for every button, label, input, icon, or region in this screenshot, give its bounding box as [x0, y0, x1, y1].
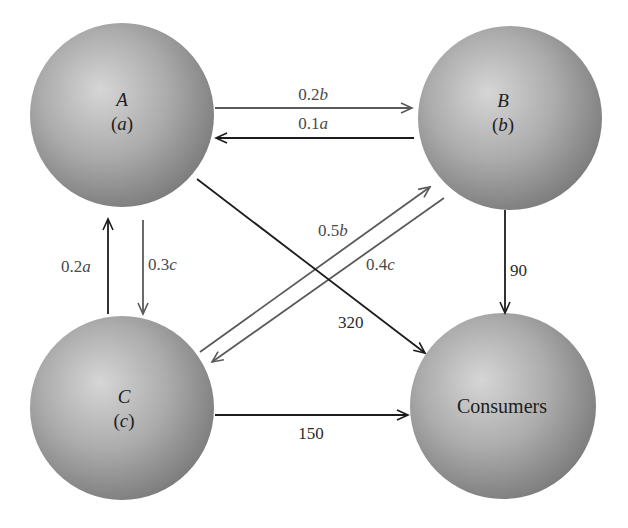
edge-label-a-to-c: 0.3c: [148, 255, 177, 274]
edge-a-to-b: 0.2b: [215, 85, 412, 108]
edge-a-to-c: 0.3c: [143, 220, 177, 314]
sphere-c: [30, 316, 214, 500]
node-c-variable: (c): [113, 410, 134, 432]
node-b: B (b): [418, 26, 602, 210]
node-c: C (c): [30, 316, 214, 500]
edge-c-to-a: 0.2a: [61, 219, 108, 314]
node-c-name: C: [118, 386, 131, 407]
edge-label-b-to-a: 0.1a: [298, 114, 328, 133]
edge-label-b-to-c: 0.4c: [366, 255, 395, 274]
edge-label-c-to-consumers: 150: [298, 424, 324, 443]
node-b-variable: (b): [492, 114, 514, 136]
edge-label-c-to-b: 0.5b: [318, 221, 348, 240]
edge-b-to-a: 0.1a: [216, 114, 414, 138]
edge-c-to-consumers: 150: [215, 415, 408, 443]
edge-label-b-to-consumers: 90: [510, 261, 527, 280]
edge-label-a-to-b: 0.2b: [298, 85, 328, 104]
node-consumers-name: Consumers: [457, 395, 547, 417]
edge-label-c-to-a: 0.2a: [61, 257, 91, 276]
edge-label-a-to-consumers: 320: [338, 313, 364, 332]
node-b-name: B: [497, 90, 509, 111]
flow-diagram: A (a) B (b) C (c) Consumers 0.2b 0.1a 0.…: [0, 0, 628, 528]
edge-b-to-consumers: 90: [505, 210, 527, 313]
node-a-name: A: [114, 89, 128, 110]
node-a: A (a): [30, 23, 214, 207]
node-consumers: Consumers: [410, 313, 596, 499]
node-a-variable: (a): [111, 113, 133, 135]
